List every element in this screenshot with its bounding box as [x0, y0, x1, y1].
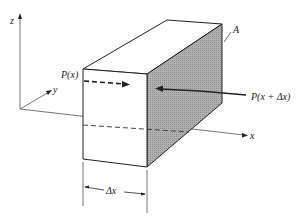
control-volume-diagram: z y x A P(x) P(x + Δx) Δx — [0, 0, 305, 222]
area-label: A — [232, 24, 240, 35]
dimension-arrow-right — [141, 193, 146, 196]
pressure-out-label: P(x + Δx) — [250, 91, 291, 103]
y-axis-arrowhead — [46, 90, 52, 95]
area-leader-line — [224, 32, 231, 42]
z-axis-label: z — [9, 15, 14, 26]
x-axis-arrowhead — [242, 133, 248, 138]
pressure-in-label: P(x) — [60, 69, 79, 81]
y-axis — [20, 92, 49, 109]
block — [83, 20, 222, 167]
front-face — [83, 69, 147, 167]
y-axis-label: y — [52, 84, 58, 95]
dimension-arrow-left — [84, 186, 89, 189]
length-label: Δx — [105, 185, 117, 196]
x-axis-label: x — [249, 130, 255, 141]
z-axis-arrowhead — [18, 13, 22, 19]
